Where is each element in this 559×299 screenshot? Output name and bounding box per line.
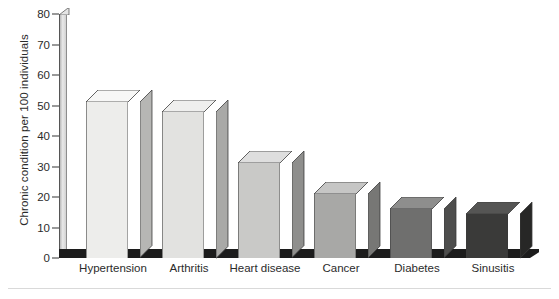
y-axis-tick-label: 10 xyxy=(24,222,50,234)
y-axis-tick-mark xyxy=(52,105,59,106)
footer-divider xyxy=(8,288,551,289)
bar-front-face xyxy=(390,209,432,258)
bar-heart-disease xyxy=(238,151,280,258)
y-axis-cap-icon xyxy=(59,8,70,15)
y-axis-spine xyxy=(59,14,67,258)
y-axis-tick-label: 80 xyxy=(24,8,50,20)
bar-sinusitis xyxy=(466,202,508,258)
x-axis-label-sinusitis: Sinusitis xyxy=(472,262,515,274)
bar-hypertension xyxy=(86,90,128,258)
x-axis-label-arthritis: Arthritis xyxy=(170,262,209,274)
y-axis-tick-mark xyxy=(52,75,59,76)
bar-front-face xyxy=(466,214,508,258)
x-axis-label-heart-disease: Heart disease xyxy=(230,262,301,274)
bar-front-face xyxy=(238,163,280,258)
y-axis-tick-mark xyxy=(52,227,59,228)
y-axis-tick-label: 20 xyxy=(24,191,50,203)
y-axis-tick-mark xyxy=(52,166,59,167)
bar-chart-figure: Chronic condition per 100 individuals 01… xyxy=(0,0,559,299)
y-axis-tick-mark xyxy=(52,44,59,45)
y-axis-tick-labels: 01020304050607080 xyxy=(24,0,50,272)
x-axis-label-diabetes: Diabetes xyxy=(394,262,439,274)
x-axis-category-labels: HypertensionArthritisHeart diseaseCancer… xyxy=(0,262,559,280)
y-axis-tick-label: 30 xyxy=(24,161,50,173)
bar-cancer xyxy=(314,182,356,258)
plot-area: 01020304050607080 xyxy=(0,0,559,272)
y-axis-tick-label: 50 xyxy=(24,100,50,112)
y-axis-tick-mark xyxy=(52,258,59,259)
y-axis-tick-label: 60 xyxy=(24,69,50,81)
bar-front-face xyxy=(314,194,356,258)
bar-front-face xyxy=(86,102,128,258)
y-axis-tick-label: 70 xyxy=(24,39,50,51)
bar-arthritis xyxy=(162,100,204,258)
bar-front-face xyxy=(162,112,204,258)
bar-diabetes xyxy=(390,197,432,258)
x-axis-label-cancer: Cancer xyxy=(322,262,359,274)
y-axis-tick-label: 40 xyxy=(24,130,50,142)
y-axis-tick-mark xyxy=(52,197,59,198)
x-axis-label-hypertension: Hypertension xyxy=(79,262,147,274)
y-axis-tick-mark xyxy=(52,14,59,15)
y-axis-tick-mark xyxy=(52,136,59,137)
